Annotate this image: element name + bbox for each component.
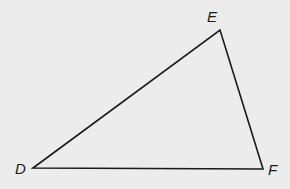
vertex-label-e: E xyxy=(207,8,218,25)
vertex-label-f: F xyxy=(268,161,278,178)
vertex-label-d: D xyxy=(15,160,26,177)
triangle-svg: D E F xyxy=(0,0,290,189)
triangle-diagram: D E F xyxy=(0,0,290,189)
triangle-def xyxy=(33,30,263,169)
